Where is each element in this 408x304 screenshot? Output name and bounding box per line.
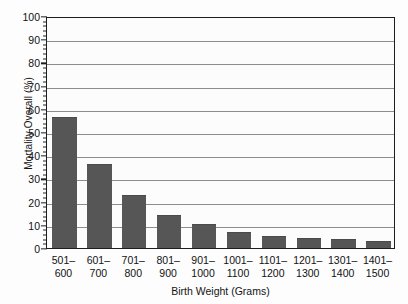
y-tick-label: 0	[6, 243, 40, 255]
x-tick-label: 801–900	[151, 254, 186, 279]
bar	[192, 224, 216, 248]
y-tick-label: 30	[6, 173, 40, 185]
x-tick-label: 601–700	[81, 254, 116, 279]
x-tick-label-upper: 900	[151, 267, 186, 280]
x-tick-label-upper: 1000	[186, 267, 221, 280]
bar	[366, 241, 390, 248]
x-tick-label: 501–600	[46, 254, 81, 279]
x-tick-label-lower: 701–	[116, 254, 151, 267]
x-axis-title: Birth Weight (Grams)	[46, 285, 395, 297]
x-tick-label-upper: 1100	[221, 267, 256, 280]
plot-area	[46, 17, 395, 249]
bar-series	[47, 18, 394, 248]
x-tick-label-lower: 801–	[151, 254, 186, 267]
y-tick-label: 20	[6, 197, 40, 209]
y-tick-label: 80	[6, 57, 40, 69]
bar	[52, 117, 76, 248]
y-tick-label: 60	[6, 104, 40, 116]
bar-chart-figure: Mortality Overall (%) 010203040506070809…	[0, 0, 408, 304]
x-tick-label-upper: 800	[116, 267, 151, 280]
x-tick-label-upper: 1500	[360, 267, 395, 280]
x-tick-label-lower: 901–	[186, 254, 221, 267]
bar	[227, 232, 251, 248]
bar	[262, 236, 286, 248]
x-tick-label: 1401–1500	[360, 254, 395, 279]
bar	[297, 238, 321, 248]
y-tick-label: 70	[6, 81, 40, 93]
bar	[157, 215, 181, 248]
x-tick-label: 1301–1400	[325, 254, 360, 279]
x-tick-label-lower: 501–	[46, 254, 81, 267]
x-tick-label-upper: 1200	[255, 267, 290, 280]
y-tick-label: 50	[6, 127, 40, 139]
x-tick-label-lower: 1101–	[255, 254, 290, 267]
x-tick-label: 901–1000	[186, 254, 221, 279]
x-tick-label-upper: 1300	[290, 267, 325, 280]
bar	[122, 195, 146, 248]
y-tick-label: 100	[6, 11, 40, 23]
x-tick-label-lower: 1201–	[290, 254, 325, 267]
y-tick-label: 10	[6, 220, 40, 232]
x-tick-label-lower: 1401–	[360, 254, 395, 267]
x-tick-label-upper: 600	[46, 267, 81, 280]
x-tick-label: 1101–1200	[255, 254, 290, 279]
x-tick-label: 1201–1300	[290, 254, 325, 279]
x-tick-label-lower: 601–	[81, 254, 116, 267]
bar	[331, 239, 355, 248]
x-tick-label-lower: 1001–	[221, 254, 256, 267]
x-tick-label-upper: 1400	[325, 267, 360, 280]
bar	[87, 164, 111, 248]
x-tick-label-upper: 700	[81, 267, 116, 280]
y-tick-label: 90	[6, 34, 40, 46]
x-tick-label-lower: 1301–	[325, 254, 360, 267]
x-tick-label: 1001–1100	[221, 254, 256, 279]
x-tick-label: 701–800	[116, 254, 151, 279]
y-tick-label: 40	[6, 150, 40, 162]
